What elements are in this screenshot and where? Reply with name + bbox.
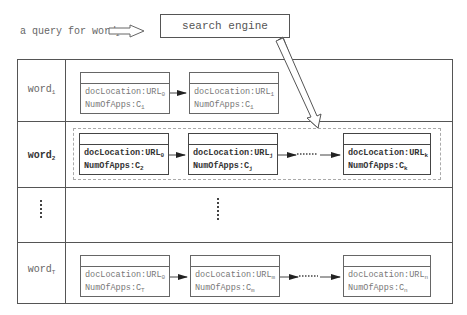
link-arrows: [0, 0, 467, 315]
